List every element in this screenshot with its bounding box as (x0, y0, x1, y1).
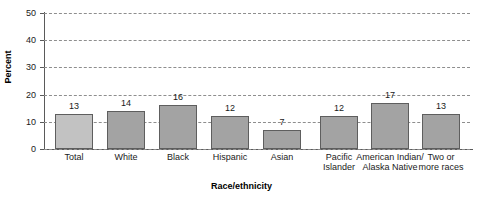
bar-value-label: 12 (210, 104, 250, 113)
bars-group: 131416127121713 (44, 13, 470, 149)
bar-value-label: 13 (54, 102, 94, 111)
bar (320, 116, 358, 149)
bar (371, 103, 409, 149)
y-tick-label: 30 (10, 63, 36, 72)
bar (159, 105, 197, 149)
bar (422, 114, 460, 149)
gridline (44, 149, 470, 150)
bar-value-label: 7 (262, 118, 302, 127)
x-category-label: Two or more races (405, 152, 477, 172)
bar-chart: Percent 01020304050 131416127121713 Tota… (0, 0, 483, 201)
bar-value-label: 13 (421, 102, 461, 111)
bar (55, 114, 93, 149)
bar (107, 111, 145, 149)
scan-artifact (0, 0, 483, 6)
bar-value-label: 16 (158, 93, 198, 102)
x-axis-title: Race/ethnicity (0, 181, 483, 191)
y-tick-label: 20 (10, 91, 36, 100)
bar-value-label: 14 (106, 99, 146, 108)
bar (263, 130, 301, 149)
y-tick-label: 0 (10, 145, 36, 154)
y-tick-label: 50 (10, 9, 36, 18)
y-tick-label: 10 (10, 118, 36, 127)
bar (211, 116, 249, 149)
y-tick-label: 40 (10, 36, 36, 45)
bar-value-label: 17 (370, 91, 410, 100)
bar-value-label: 12 (319, 104, 359, 113)
